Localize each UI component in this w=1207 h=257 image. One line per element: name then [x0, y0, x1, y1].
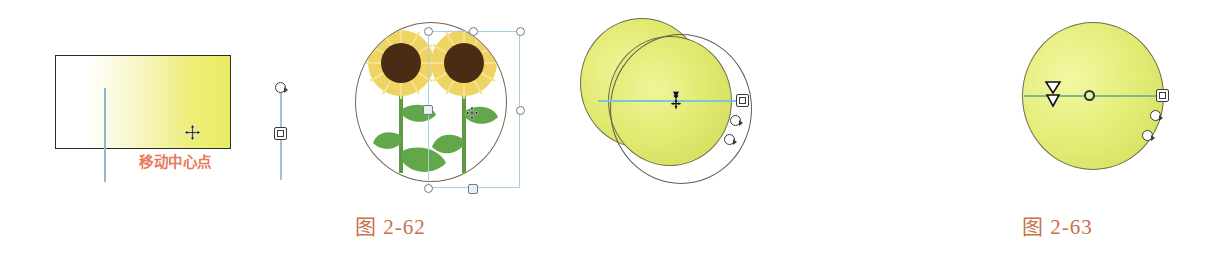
move-square-handle-icon[interactable] — [736, 94, 749, 107]
selection-handle-middle-right[interactable] — [516, 106, 525, 115]
selection-handle-top-left[interactable] — [424, 27, 433, 36]
selection-handle-top-right[interactable] — [516, 27, 525, 36]
rotate-handle-icon[interactable] — [1142, 130, 1153, 141]
rotate-handle-icon[interactable] — [275, 82, 286, 93]
move-cursor-icon — [465, 106, 482, 123]
rotate-handle-icon[interactable] — [730, 115, 741, 126]
figure-caption-2-62: 图 2-62 — [355, 210, 426, 240]
center-point-pin-icon[interactable] — [668, 90, 684, 110]
selection-handle-bottom-center[interactable] — [468, 184, 478, 194]
rotated-circles-figure-group — [578, 14, 768, 199]
move-square-handle-icon[interactable] — [274, 127, 287, 140]
gradient-rectangle-shape[interactable] — [55, 55, 231, 149]
rotate-handle-icon[interactable] — [724, 134, 735, 145]
selection-handle-middle-left[interactable] — [423, 105, 433, 115]
selection-handle-bottom-left[interactable] — [424, 184, 433, 193]
figure-page: 移动中心点 — [0, 0, 1207, 257]
vertical-axis-line — [104, 88, 106, 182]
rotate-handle-icon[interactable] — [1150, 110, 1161, 121]
move-center-point-label: 移动中心点 — [139, 150, 212, 171]
sunflower-figure-group — [355, 14, 535, 194]
move-cursor-icon — [184, 124, 201, 141]
single-circle-figure-group — [1022, 22, 1182, 187]
double-triangle-marker-icon — [1044, 79, 1062, 111]
center-point-handle[interactable] — [1084, 90, 1095, 101]
figure-caption-2-63: 图 2-63 — [1022, 210, 1093, 240]
selection-handle-top-center[interactable] — [469, 27, 478, 36]
move-square-handle-icon[interactable] — [1156, 89, 1169, 102]
